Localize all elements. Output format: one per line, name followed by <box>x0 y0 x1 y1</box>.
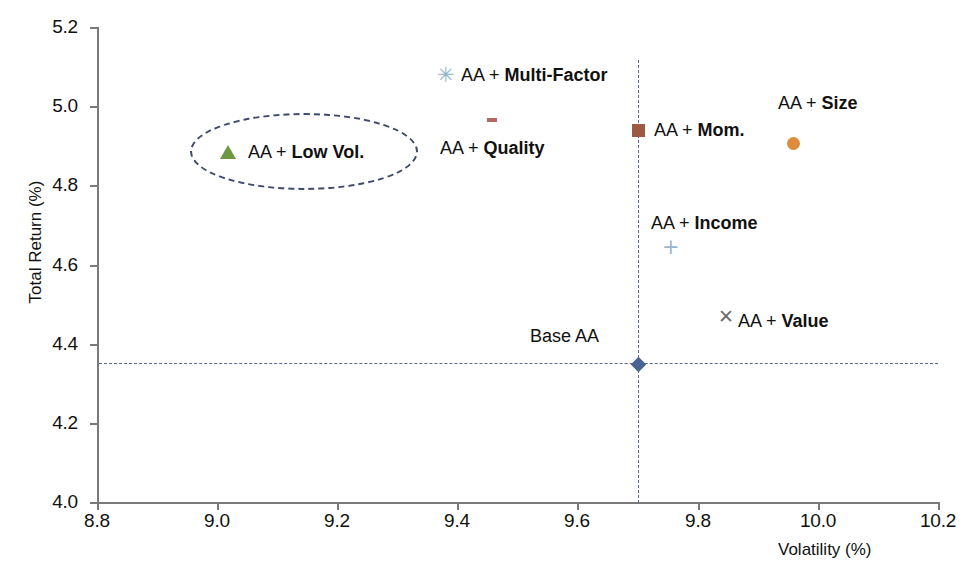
point-label-income: AA + Income <box>651 213 758 234</box>
y-tick-mark <box>90 423 98 425</box>
x-tick-mark <box>97 502 99 510</box>
point-label-low-vol: AA + Low Vol. <box>248 142 364 163</box>
label-prefix: AA + <box>651 213 695 233</box>
scatter-chart: 5.2 5.0 4.8 4.6 4.4 4.2 4.0 8.8 9.0 9.2 … <box>0 0 965 585</box>
marker-multi-factor-asterisk-icon[interactable]: ✳ <box>437 65 455 86</box>
y-tick-label: 5.0 <box>38 95 78 117</box>
point-label-multi-factor: AA + Multi-Factor <box>461 65 608 86</box>
point-label-size: AA + Size <box>778 93 858 114</box>
y-tick-label: 4.2 <box>38 412 78 434</box>
x-tick-mark <box>337 502 339 510</box>
label-prefix: AA + <box>738 311 782 331</box>
y-tick-label: 4.4 <box>38 333 78 355</box>
x-tick-mark <box>577 502 579 510</box>
x-axis-title: Volatility (%) <box>778 540 948 560</box>
x-tick-label: 8.8 <box>67 510 127 532</box>
marker-size-circle-icon[interactable] <box>787 137 800 150</box>
x-tick-mark <box>698 502 700 510</box>
x-tick-mark <box>938 502 940 510</box>
point-label-mom: AA + Mom. <box>654 120 745 141</box>
x-tick-label: 10.0 <box>788 510 848 532</box>
x-tick-label: 9.2 <box>307 510 367 532</box>
y-tick-mark <box>90 265 98 267</box>
label-emphasis: Income <box>695 213 758 233</box>
label-emphasis: Low Vol. <box>292 142 365 162</box>
x-tick-label: 10.2 <box>908 510 965 532</box>
x-tick-mark <box>217 502 219 510</box>
y-tick-label: 5.2 <box>38 16 78 38</box>
x-tick-label: 9.0 <box>187 510 247 532</box>
label-prefix: AA + <box>440 138 484 158</box>
y-tick-mark <box>90 185 98 187</box>
y-tick-mark <box>90 106 98 108</box>
marker-value-cross-icon[interactable]: ✕ <box>718 307 734 326</box>
label-prefix: AA + <box>461 65 505 85</box>
x-tick-mark <box>818 502 820 510</box>
label-prefix: AA + <box>654 120 698 140</box>
x-tick-label: 9.4 <box>427 510 487 532</box>
marker-low-vol-triangle-icon[interactable] <box>220 145 236 159</box>
label-emphasis: Multi-Factor <box>505 65 608 85</box>
marker-income-plus-icon[interactable]: + <box>662 237 680 258</box>
y-tick-mark <box>90 344 98 346</box>
point-label-quality: AA + Quality <box>440 138 545 159</box>
y-tick-mark <box>90 27 98 29</box>
x-tick-label: 9.8 <box>668 510 728 532</box>
label-emphasis: Mom. <box>698 120 745 140</box>
marker-quality-dash-icon[interactable] <box>487 118 497 122</box>
label-emphasis: Size <box>822 93 858 113</box>
x-tick-label: 9.6 <box>547 510 607 532</box>
point-label-value: AA + Value <box>738 311 829 332</box>
y-axis-title: Total Return (%) <box>26 162 46 322</box>
marker-base-aa-diamond-icon[interactable] <box>631 357 647 373</box>
x-axis-line <box>97 502 938 504</box>
marker-mom-square-icon[interactable] <box>632 124 645 137</box>
horizontal-reference-line <box>99 363 938 364</box>
point-label-base-aa: Base AA <box>530 326 599 347</box>
label-prefix: AA + <box>248 142 292 162</box>
label-emphasis: Value <box>782 311 829 331</box>
label-emphasis: Quality <box>484 138 545 158</box>
x-tick-mark <box>457 502 459 510</box>
label-prefix: AA + <box>778 93 822 113</box>
